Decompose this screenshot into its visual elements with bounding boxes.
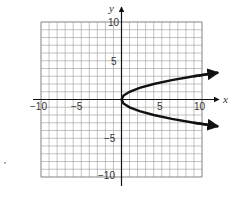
x-tick-5: 5	[157, 101, 163, 112]
coordinate-plane: x y −10 −5 5 10 10 5 −5 −10	[0, 0, 244, 197]
x-tick-10: 10	[194, 101, 206, 112]
x-tick-neg5: −5	[71, 101, 83, 112]
x-axis-label: x	[222, 93, 228, 105]
y-tick-10: 10	[108, 17, 120, 28]
x-tick-neg10: −10	[30, 101, 47, 112]
y-tick-5: 5	[111, 56, 117, 67]
y-axis-label: y	[108, 2, 114, 14]
stray-mark	[4, 162, 6, 164]
upper-arrow-icon	[194, 73, 218, 77]
y-tick-neg10: −10	[98, 170, 115, 181]
y-tick-neg5: −5	[104, 133, 116, 144]
